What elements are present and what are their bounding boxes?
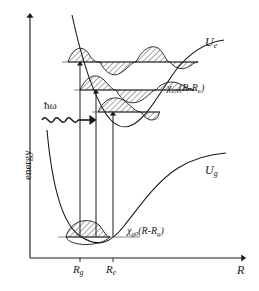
- photon-arrow: [42, 118, 92, 123]
- ground-wavefunction-label: χg0(R-Rg): [127, 226, 164, 238]
- x-tick-label-rg: Rg: [73, 264, 83, 277]
- axis-lines: [30, 16, 243, 258]
- x-tick-marks: [80, 258, 113, 262]
- excited-potential-curve: [72, 15, 224, 127]
- excited-potential-label: Ue: [205, 36, 217, 51]
- y-axis-label: energy: [22, 150, 33, 180]
- x-axis-label: R: [237, 264, 244, 276]
- potential-energy-diagram: energy R Rg Re Ue Ug χeN(R-Re) χg0(R-Rg)…: [0, 0, 259, 291]
- photon-energy-label: ħω: [44, 100, 57, 111]
- excited-wavefunction-label: χeN(R-Re): [167, 83, 204, 95]
- ground-potential-label: Ug: [205, 164, 218, 179]
- diagram-canvas: [0, 0, 259, 291]
- x-tick-label-re: Re: [106, 264, 116, 277]
- wavefunction-upper-lobes: [68, 47, 198, 75]
